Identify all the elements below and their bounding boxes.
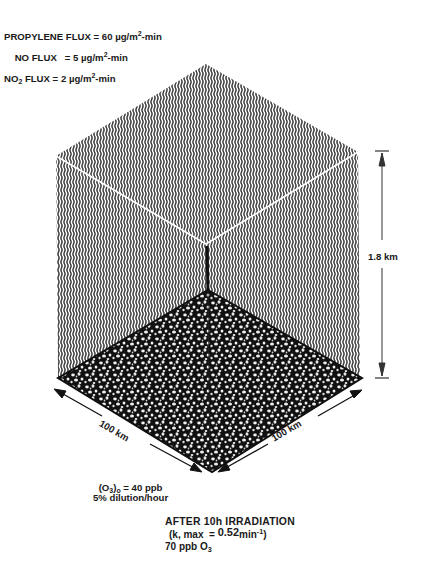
rate-constant-post: ) — [263, 529, 266, 540]
rate-constant-unit: min — [239, 529, 257, 540]
final-ozone-text: 70 ppb O — [165, 541, 208, 552]
dilution-rate: 5% dilution/hour — [93, 493, 168, 503]
height-label: 1.8 km — [368, 250, 398, 263]
rate-constant: (k, max = 0.52min-1) — [165, 528, 295, 541]
rate-constant-value: 0.52 — [218, 526, 239, 538]
final-ozone: 70 ppb O3 — [165, 541, 295, 553]
final-ozone-sub: 3 — [208, 545, 212, 554]
irradiation-result: AFTER 10h IRRADIATION (k, max = 0.52min-… — [165, 516, 295, 553]
box-back-edge — [207, 246, 208, 292]
air-basin-box-diagram — [0, 0, 422, 574]
rate-constant-pre: (k, max = — [169, 529, 218, 540]
height-dimension — [375, 151, 389, 378]
initial-conditions: (O3)o = 40 ppb 5% dilution/hour — [93, 483, 168, 503]
